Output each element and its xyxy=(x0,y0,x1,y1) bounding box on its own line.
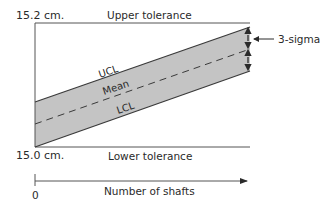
top-value-label: 15.2 cm. xyxy=(16,9,64,22)
sigma-label: 3-sigma xyxy=(278,33,320,45)
control-chart-diagram: 15.2 cm. Upper tolerance 15.0 cm. Lower … xyxy=(0,0,331,210)
lower-tolerance-label: Lower tolerance xyxy=(108,150,192,162)
x-axis-label: Number of shafts xyxy=(104,185,195,197)
upper-tolerance-label: Upper tolerance xyxy=(107,9,192,21)
x-origin-label: 0 xyxy=(32,189,39,201)
bottom-value-label: 15.0 cm. xyxy=(16,149,64,162)
